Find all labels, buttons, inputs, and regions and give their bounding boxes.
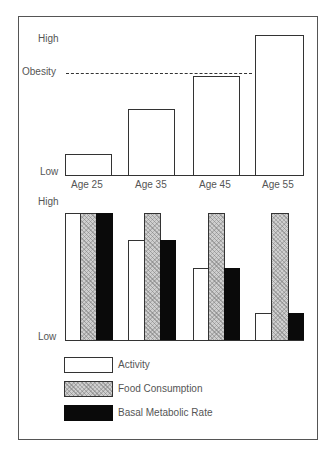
legend-swatch-food xyxy=(64,381,113,397)
bar-food-age-55 xyxy=(271,213,289,341)
bar-activity-age-55 xyxy=(255,313,272,341)
bar-food-age-45 xyxy=(208,213,225,341)
legend-label-activity: Activity xyxy=(118,359,150,370)
bar-bmr-age-55 xyxy=(288,313,304,341)
x-label-age-35: Age 35 xyxy=(135,179,167,190)
legend-label-food: Food Consumption xyxy=(118,383,203,394)
legend-swatch-bmr xyxy=(64,405,113,421)
bar-activity-age-45 xyxy=(193,268,209,341)
bottom-y-high-label: High xyxy=(38,196,59,207)
bottom-y-low-label: Low xyxy=(38,331,56,342)
top-baseline xyxy=(65,175,304,176)
x-label-age-25: Age 25 xyxy=(71,179,103,190)
bar-food-age-25 xyxy=(80,213,97,341)
top-y-low-label: Low xyxy=(40,166,58,177)
top-y-high-label: High xyxy=(38,33,59,44)
obesity-threshold-line xyxy=(66,73,252,74)
bar-bmr-age-45 xyxy=(224,268,240,341)
legend-label-bmr: Basal Metabolic Rate xyxy=(118,407,213,418)
legend-swatch-activity xyxy=(64,357,113,373)
x-label-age-45: Age 45 xyxy=(199,179,231,190)
bar-activity-age-25 xyxy=(65,213,81,341)
obesity-label: Obesity xyxy=(22,66,56,77)
bar-bmr-age-35 xyxy=(160,240,176,341)
bar-age-55 xyxy=(255,35,304,176)
bar-age-25 xyxy=(65,154,112,176)
bar-bmr-age-25 xyxy=(96,213,113,341)
bar-age-35 xyxy=(128,109,175,176)
bar-age-45 xyxy=(193,76,240,176)
bottom-baseline xyxy=(65,340,304,341)
bar-activity-age-35 xyxy=(128,240,145,341)
x-label-age-55: Age 55 xyxy=(262,179,294,190)
bar-food-age-35 xyxy=(144,213,161,341)
